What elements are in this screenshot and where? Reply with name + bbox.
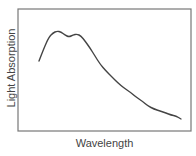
y-axis-label: Light Absorption [5, 23, 17, 113]
x-axis-label: Wavelength [18, 137, 191, 149]
chart [0, 0, 196, 156]
absorption-line [39, 31, 181, 119]
